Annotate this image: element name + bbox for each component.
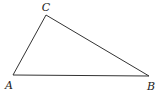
edge-bc [46, 15, 149, 76]
vertex-label-c: C [42, 1, 51, 14]
edge-ab [13, 75, 149, 76]
edge-ca [13, 15, 46, 75]
vertex-label-a: A [4, 79, 13, 92]
triangle-diagram: A B C [0, 0, 162, 96]
vertex-label-b: B [146, 80, 155, 93]
